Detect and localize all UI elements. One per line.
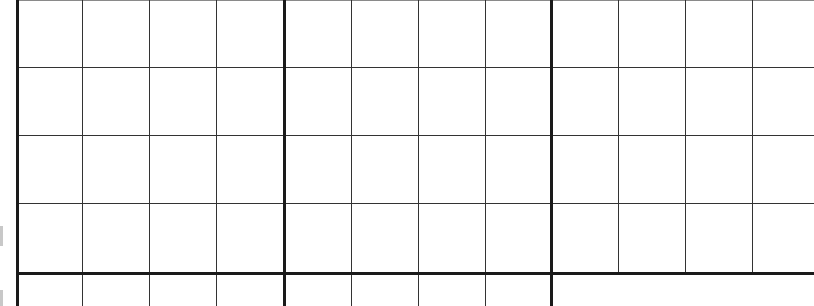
edge-artifact-lower	[0, 290, 3, 306]
faint-top-line	[17, 0, 814, 1]
thin-vertical-line	[216, 0, 217, 306]
thin-vertical-line	[485, 0, 486, 306]
thin-vertical-line	[149, 0, 150, 306]
thin-vertical-line	[752, 0, 753, 273]
thin-vertical-line	[685, 0, 686, 273]
thin-vertical-line	[351, 0, 352, 306]
thin-horizontal-line	[17, 135, 814, 136]
thin-vertical-line	[82, 0, 83, 306]
grid-paper	[0, 0, 814, 306]
thin-horizontal-line	[17, 203, 814, 204]
thick-vertical-line	[550, 0, 553, 306]
thin-horizontal-line	[17, 67, 814, 68]
thick-horizontal-line	[16, 272, 814, 275]
thin-vertical-line	[418, 0, 419, 306]
thick-vertical-line	[16, 0, 19, 306]
thin-vertical-line	[618, 0, 619, 273]
edge-artifact-upper	[0, 226, 3, 246]
thick-vertical-line	[283, 0, 286, 306]
